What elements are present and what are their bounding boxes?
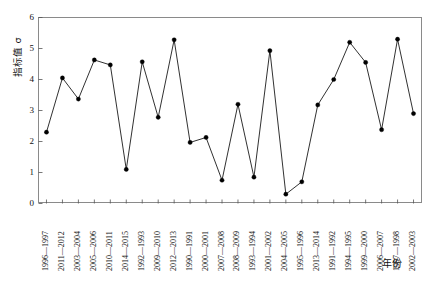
x-tick-label: 1993—1994 [248,207,259,271]
x-tick-label: 2000—2001 [201,207,212,271]
x-tick-label: 2011—2012 [57,207,68,271]
x-tick-label: 2008—2009 [232,207,243,271]
x-axis-title: 年份 [382,258,402,269]
x-tick-label: 2012—2013 [169,207,180,271]
x-tick-label: 2003—2004 [73,207,84,271]
x-tick-label: 2010—2011 [105,207,116,271]
x-tick-label: 2014—2015 [121,207,132,271]
x-tick-label: 2005—2006 [89,207,100,271]
x-axis-tick-labels: 1996—19972011—20122003—20042005—20062010… [0,0,437,282]
x-tick-label: 2007—2008 [217,207,228,271]
x-tick-label: 1990—1991 [185,207,196,271]
x-tick-label: 1994—1995 [344,207,355,271]
x-tick-label: 2009—2010 [153,207,164,271]
x-tick-label: 1996—1997 [41,207,52,271]
x-tick-label: 1999—2000 [360,207,371,271]
x-tick-label: 1995—1996 [296,207,307,271]
x-tick-label: 1992—1993 [137,207,148,271]
x-tick-label: 2004—2005 [280,207,291,271]
x-tick-label: 2013—2014 [312,207,323,271]
x-tick-label: 1991—1992 [328,207,339,271]
x-tick-label: 2002—2003 [408,207,419,271]
x-tick-label: 2001—2002 [264,207,275,271]
chart-figure: 6543210 指标值 σ 1996—19972011—20122003—200… [0,0,437,282]
